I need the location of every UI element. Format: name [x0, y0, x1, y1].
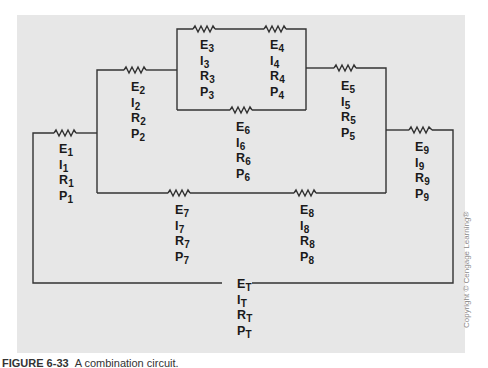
label-group-r3: E3 I3 R3 P3: [200, 38, 215, 100]
copyright-notice: Copyright © Cengage Learning®: [462, 212, 471, 328]
label-group-total: ET IT RT PT: [237, 277, 252, 339]
figure-caption-label: FIGURE 6-33: [2, 357, 69, 368]
label-group-r7: E7 I7 R7 P7: [175, 203, 190, 265]
label-group-r5: E5 I5 R5 P5: [341, 79, 356, 141]
figure-caption-text: A combination circuit.: [75, 357, 179, 368]
label-group-r6: E6 I6 R6 P6: [236, 120, 251, 182]
wire-r2: [97, 70, 124, 193]
label-group-r1: E1 I1 R1 P1: [59, 142, 74, 204]
resistor-r6-icon: [230, 107, 252, 113]
label-group-r8: E8 I8 R8 P8: [300, 203, 315, 265]
resistor-r4-icon: [264, 26, 286, 32]
wire-r3-r4-left: [177, 29, 193, 110]
resistor-r3-icon: [193, 26, 215, 32]
label-group-r9: E9 I9 R9 P9: [415, 140, 430, 202]
label-group-r2: E2 I2 R2 P2: [131, 80, 146, 142]
resistor-r8-icon: [294, 190, 316, 196]
resistor-r2-icon: [124, 67, 146, 73]
resistor-r9-icon: [409, 127, 432, 133]
figure-caption: FIGURE 6-33A combination circuit.: [2, 357, 179, 368]
label-group-r4: E4 I4 R4 P4: [270, 38, 285, 100]
resistor-r1-icon: [54, 130, 76, 136]
resistor-r7-icon: [168, 190, 190, 196]
resistor-r5-icon: [334, 65, 356, 71]
